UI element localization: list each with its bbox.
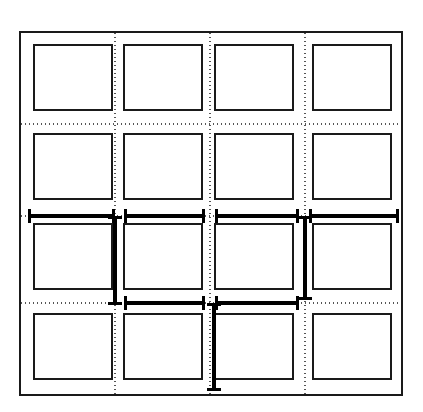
panel-r4c1 [34, 314, 112, 379]
panel-r2c3 [215, 134, 293, 199]
panel-r3c1 [34, 224, 112, 289]
panel-r4c3 [215, 314, 293, 379]
panel-r2c2 [124, 134, 202, 199]
panel-r2c1 [34, 134, 112, 199]
panel-r1c4 [313, 45, 391, 110]
panel-r2c4 [313, 134, 391, 199]
panel-r4c4 [313, 314, 391, 379]
grid-dimension-diagram [0, 0, 423, 412]
diagram-root [0, 0, 423, 412]
panel-r1c3 [215, 45, 293, 110]
panel-r1c1 [34, 45, 112, 110]
panel-r4c2 [124, 314, 202, 379]
panel-r3c4 [313, 224, 391, 289]
panel-r1c2 [124, 45, 202, 110]
panel-r3c2 [124, 224, 202, 289]
panel-r3c3 [215, 224, 293, 289]
